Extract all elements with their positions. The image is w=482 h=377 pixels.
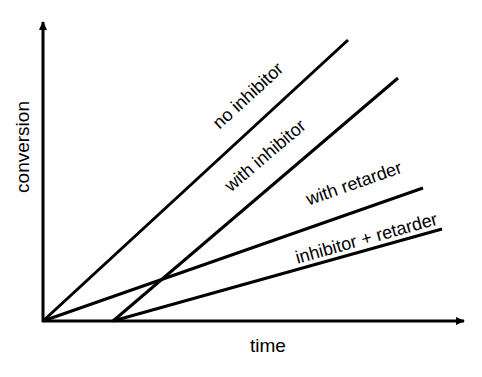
label-with-retarder: with retarder xyxy=(303,157,405,209)
y-axis-label: conversion xyxy=(12,101,33,193)
kinetics-diagram: conversion time no inhibitor with inhibi… xyxy=(0,0,482,377)
line-no-inhibitor xyxy=(43,40,348,321)
line-with-retarder xyxy=(43,188,423,321)
label-with-inhibitor: with inhibitor xyxy=(220,115,310,196)
line-inhibitor-retarder xyxy=(113,229,442,321)
label-inhibitor-retarder: inhibitor + retarder xyxy=(293,209,440,268)
x-axis-label: time xyxy=(250,335,286,356)
label-no-inhibitor: no inhibitor xyxy=(209,58,287,132)
line-with-inhibitor xyxy=(113,78,398,321)
